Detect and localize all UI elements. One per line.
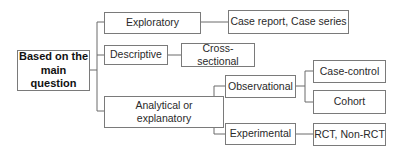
node-case-control: Case-control (313, 60, 386, 83)
node-descriptive-label: Descriptive (110, 48, 162, 61)
node-experimental-label: Experimental (230, 127, 291, 140)
root-node-main-question: Based on the main question (17, 50, 90, 91)
node-case-report: Case report, Case series (228, 10, 349, 34)
node-cross-sectional-label: Cross-sectional (182, 42, 254, 68)
node-descriptive: Descriptive (104, 45, 168, 65)
node-analytical: Analytical or explanatory (104, 96, 224, 128)
node-exploratory: Exploratory (104, 12, 201, 34)
node-case-control-label: Case-control (320, 65, 380, 78)
node-cohort-label: Cohort (334, 95, 366, 108)
node-cohort: Cohort (313, 90, 386, 114)
node-observational-label: Observational (228, 80, 293, 93)
node-exploratory-label: Exploratory (126, 16, 179, 29)
node-rct: RCT, Non-RCT (313, 123, 386, 146)
node-observational: Observational (225, 75, 296, 98)
node-experimental: Experimental (225, 123, 296, 145)
node-cross-sectional: Cross-sectional (181, 43, 255, 67)
node-rct-label: RCT, Non-RCT (314, 128, 385, 141)
node-analytical-label: Analytical or explanatory (127, 99, 201, 125)
node-case-report-label: Case report, Case series (230, 15, 346, 28)
root-node-label: Based on the main question (18, 50, 89, 91)
